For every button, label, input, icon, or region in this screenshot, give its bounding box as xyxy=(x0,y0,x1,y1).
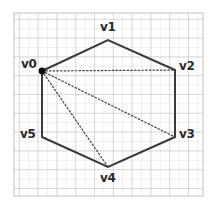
hexagon-diagram: v0 v1 v2 v3 v4 v5 xyxy=(0,0,214,210)
vertex-label-v4: v4 xyxy=(100,172,116,184)
vertex-label-v1: v1 xyxy=(100,21,116,33)
vertex-label-v5: v5 xyxy=(20,128,36,140)
vertex-marker-v0 xyxy=(39,68,46,75)
vertex-label-v0: v0 xyxy=(21,58,37,70)
vertex-label-v2: v2 xyxy=(179,60,195,72)
vertex-label-v3: v3 xyxy=(179,128,195,140)
